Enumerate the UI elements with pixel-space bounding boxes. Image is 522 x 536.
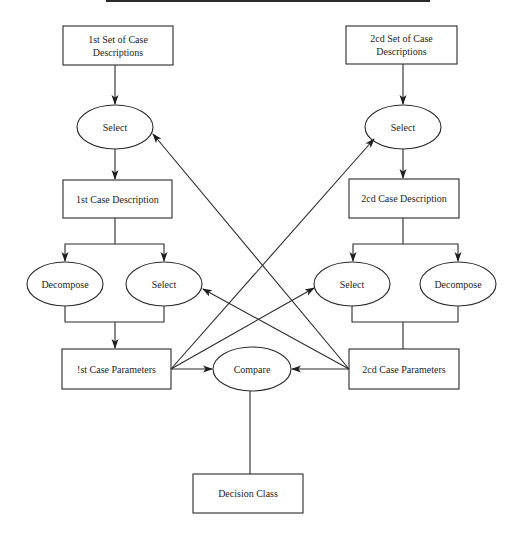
decompose2-label: Decompose — [420, 262, 496, 306]
select2b-label: Select — [314, 262, 390, 306]
set1-label: 1st Set of Case Descriptions — [63, 26, 173, 65]
select1b-label: Select — [126, 262, 202, 306]
edge-params1-select2 — [171, 139, 374, 369]
params2-label: 2cd Case Parameters — [349, 349, 459, 389]
set2-label-line1: 2cd Set of Case — [370, 32, 433, 45]
select1-label: Select — [77, 105, 153, 149]
set2-label-line2: Descriptions — [376, 45, 427, 58]
edge-case2-select2b — [353, 244, 403, 261]
edge-case1-decompose1 — [65, 244, 115, 261]
edge-join-right — [352, 306, 458, 322]
set1-label-line1: 1st Set of Case — [88, 33, 148, 46]
set1-label-line2: Descriptions — [93, 46, 144, 59]
edge-case2-decompose2 — [403, 244, 458, 261]
edge-join-left — [65, 306, 164, 322]
set2-label: 2cd Set of Case Descriptions — [346, 26, 457, 64]
case1-label: 1st Case Description — [63, 180, 172, 218]
decision-label: Decision Class — [193, 474, 303, 513]
edge-params2-select1 — [153, 134, 349, 369]
select2-label: Select — [365, 105, 441, 149]
decompose1-label: Decompose — [27, 262, 103, 306]
case2-label: 2cd Case Description — [349, 179, 459, 218]
compare-label: Compare — [213, 347, 291, 391]
edge-case1-select1b — [115, 244, 164, 261]
params1-label: !st Case Parameters — [62, 349, 171, 389]
